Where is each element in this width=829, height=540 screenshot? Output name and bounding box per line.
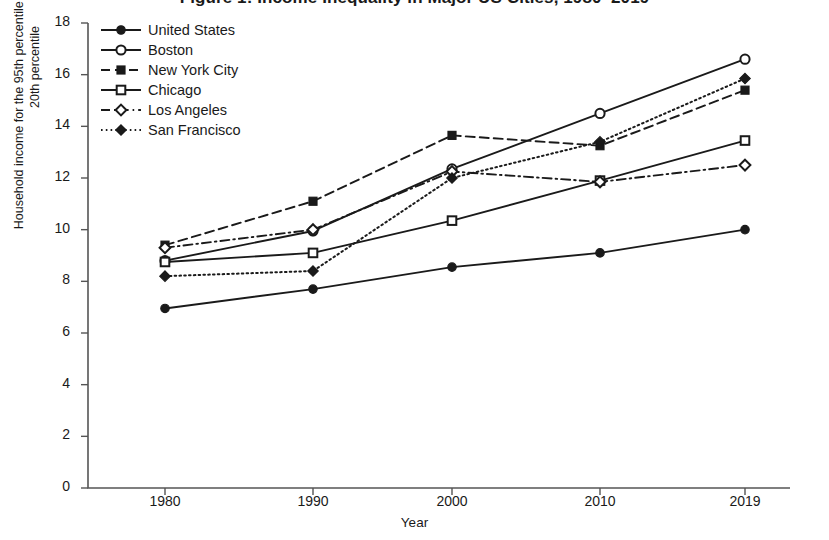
legend-item-los-angeles[interactable]: Los Angeles	[100, 100, 315, 120]
series-los-angeles	[160, 160, 751, 253]
legend-label: United States	[148, 22, 235, 38]
legend-marker-open-diamond-icon	[100, 101, 142, 119]
legend-label: San Francisco	[148, 122, 241, 138]
legend-item-chicago[interactable]: Chicago	[100, 80, 315, 100]
series-chicago	[161, 136, 750, 266]
legend-marker-filled-diamond-icon	[100, 121, 142, 139]
chart-figure: Figure 1: Income Inequality in Major US …	[0, 0, 829, 540]
legend-label: Chicago	[148, 82, 201, 98]
legend-marker-filled-square-icon	[100, 61, 142, 79]
legend-label: New York City	[148, 62, 238, 78]
legend-item-new-york-city[interactable]: New York City	[100, 60, 315, 80]
legend-label: Boston	[148, 42, 193, 58]
legend-marker-open-circle-icon	[100, 41, 142, 59]
legend-marker-filled-circle-icon	[100, 21, 142, 39]
series-united-states	[161, 225, 749, 312]
chart-legend: United StatesBostonNew York CityChicagoL…	[100, 20, 315, 140]
legend-item-united-states[interactable]: United States	[100, 20, 315, 40]
legend-item-boston[interactable]: Boston	[100, 40, 315, 60]
legend-item-san-francisco[interactable]: San Francisco	[100, 120, 315, 140]
legend-marker-open-square-icon	[100, 81, 142, 99]
legend-label: Los Angeles	[148, 102, 227, 118]
